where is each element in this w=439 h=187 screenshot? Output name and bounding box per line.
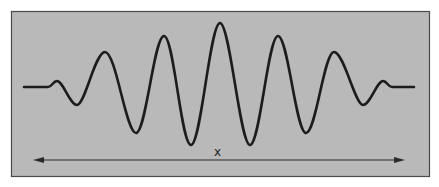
wave-packet-figure: x xyxy=(0,0,439,187)
x-axis-label: x xyxy=(214,145,221,159)
